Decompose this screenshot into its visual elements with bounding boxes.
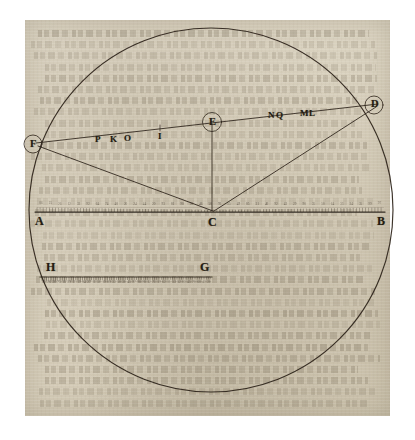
diameter-scale-numerals: 8625261233926474482024442093819890465893…: [39, 201, 381, 206]
svg-text:97: 97: [132, 280, 136, 284]
svg-text:98: 98: [180, 202, 184, 206]
svg-text:19: 19: [77, 280, 81, 284]
svg-text:53: 53: [172, 280, 176, 284]
chord-label-m: M: [300, 109, 309, 118]
svg-text:48: 48: [115, 202, 119, 206]
svg-text:45: 45: [187, 280, 191, 284]
chord-label-p: P: [95, 135, 101, 144]
svg-text:45: 45: [127, 280, 131, 284]
svg-text:64: 64: [331, 202, 335, 206]
point-label-g: G: [200, 261, 209, 273]
svg-text:90: 90: [303, 202, 307, 206]
svg-text:85: 85: [246, 202, 250, 206]
svg-text:40: 40: [265, 202, 269, 206]
svg-text:97: 97: [378, 201, 382, 205]
svg-text:50: 50: [321, 202, 325, 206]
svg-text:86: 86: [39, 201, 43, 205]
svg-text:64: 64: [96, 202, 100, 206]
svg-text:29: 29: [293, 202, 297, 206]
svg-text:49: 49: [237, 202, 241, 206]
svg-text:52: 52: [177, 280, 181, 284]
svg-text:99: 99: [368, 202, 372, 206]
svg-text:62: 62: [162, 280, 166, 284]
svg-text:20: 20: [152, 202, 156, 206]
chord-label-o: O: [124, 134, 131, 143]
svg-text:50: 50: [117, 280, 121, 284]
svg-text:11: 11: [72, 280, 76, 284]
svg-text:12: 12: [147, 280, 151, 284]
svg-text:55: 55: [227, 202, 231, 206]
point-label-h: H: [46, 261, 55, 273]
svg-text:12: 12: [68, 202, 72, 206]
svg-text:90: 90: [190, 202, 194, 206]
svg-text:35: 35: [359, 202, 363, 206]
point-label-a: A: [35, 215, 44, 227]
point-label-f: F: [30, 139, 36, 150]
svg-text:20: 20: [207, 280, 211, 284]
svg-text:78: 78: [192, 280, 196, 284]
svg-text:33: 33: [340, 202, 344, 206]
svg-text:34: 34: [350, 202, 354, 206]
point-label-b: B: [377, 215, 385, 227]
svg-text:83: 83: [182, 280, 186, 284]
svg-text:19: 19: [102, 280, 106, 284]
svg-text:71: 71: [152, 280, 156, 284]
svg-text:38: 38: [122, 280, 126, 284]
svg-text:26: 26: [47, 280, 51, 284]
svg-text:43: 43: [284, 202, 288, 206]
svg-text:24: 24: [133, 202, 137, 206]
svg-text:50: 50: [97, 280, 101, 284]
svg-text:84: 84: [82, 280, 86, 284]
chord-label-q: Q: [276, 111, 283, 120]
line-d-to-c: [214, 107, 376, 211]
chord-label-i: I: [158, 132, 162, 141]
svg-text:11: 11: [92, 280, 96, 284]
point-label-c: C: [208, 216, 217, 228]
svg-text:75: 75: [57, 280, 61, 284]
svg-text:11: 11: [167, 280, 171, 284]
chord-label-n: N: [268, 111, 275, 120]
svg-text:25: 25: [49, 201, 53, 205]
chord-label-l: L: [309, 109, 315, 118]
svg-text:33: 33: [77, 202, 81, 206]
svg-text:27: 27: [87, 280, 91, 284]
svg-text:39: 39: [67, 280, 71, 284]
figure-page: 8625261233926474482024442093819890465893…: [0, 0, 415, 440]
chord-label-k: K: [110, 135, 117, 144]
svg-text:74: 74: [105, 202, 109, 206]
svg-text:98: 98: [142, 280, 146, 284]
svg-text:20: 20: [124, 202, 128, 206]
svg-text:92: 92: [274, 202, 278, 206]
svg-text:31: 31: [256, 202, 260, 206]
svg-text:58: 58: [209, 202, 213, 206]
svg-text:33: 33: [112, 280, 116, 284]
svg-text:16: 16: [62, 280, 66, 284]
lower-scale-numerals: 1126387516391119842711501989335038459798…: [42, 280, 211, 284]
chord-line-fd: [36, 104, 378, 143]
svg-text:19: 19: [157, 280, 161, 284]
svg-text:26: 26: [58, 202, 62, 206]
svg-text:92: 92: [86, 202, 90, 206]
point-label-d: D: [371, 99, 379, 110]
svg-text:98: 98: [137, 280, 141, 284]
svg-text:89: 89: [107, 280, 111, 284]
svg-text:38: 38: [52, 280, 56, 284]
svg-text:43: 43: [202, 280, 206, 284]
svg-text:44: 44: [143, 202, 147, 206]
svg-text:81: 81: [171, 202, 175, 206]
svg-text:93: 93: [162, 202, 166, 206]
point-label-e: E: [209, 117, 216, 128]
svg-text:93: 93: [218, 202, 222, 206]
svg-text:46: 46: [199, 202, 203, 206]
svg-text:68: 68: [197, 280, 201, 284]
svg-text:11: 11: [42, 280, 46, 284]
svg-text:35: 35: [312, 202, 316, 206]
